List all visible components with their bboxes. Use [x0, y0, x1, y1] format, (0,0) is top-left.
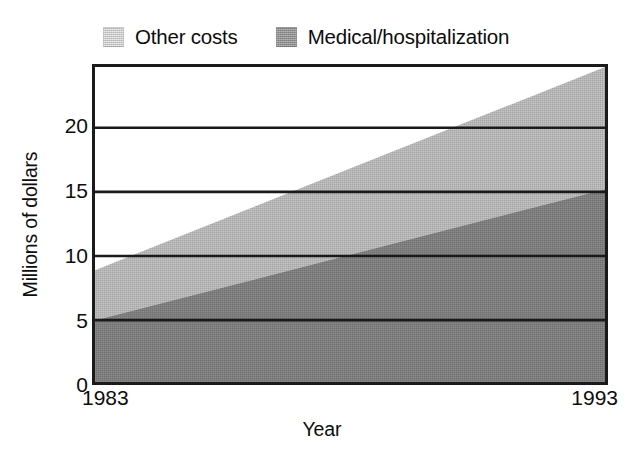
chart-figure: Other costs Medical/hospitalization Mill…: [0, 0, 644, 452]
y-tick-20: 20: [46, 115, 88, 136]
y-tick-15: 15: [46, 180, 88, 201]
y-axis-tick-labels: 20 15 10 5 0: [44, 0, 88, 452]
x-tick-1993: 1993: [571, 387, 618, 408]
y-tick-10: 10: [46, 245, 88, 266]
y-axis-title: Millions of dollars: [20, 152, 43, 298]
legend-label-medical: Medical/hospitalization: [308, 25, 510, 49]
x-axis-tick-labels: 1983 1993: [92, 387, 608, 417]
light-gray-swatch-icon: [103, 27, 124, 47]
legend-entry-medical: Medical/hospitalization: [276, 25, 510, 49]
x-tick-1983: 1983: [82, 387, 129, 408]
y-tick-5: 5: [46, 310, 88, 331]
legend-label-other-costs: Other costs: [135, 25, 238, 49]
plot-area: [92, 64, 608, 385]
x-axis-title: Year: [0, 418, 644, 441]
legend-entry-other-costs: Other costs: [103, 25, 238, 49]
dark-gray-swatch-icon: [276, 27, 297, 47]
y-axis-title-container: Millions of dollars: [14, 64, 48, 385]
chart-legend: Other costs Medical/hospitalization: [0, 20, 644, 54]
stacked-area-svg: [95, 67, 605, 382]
